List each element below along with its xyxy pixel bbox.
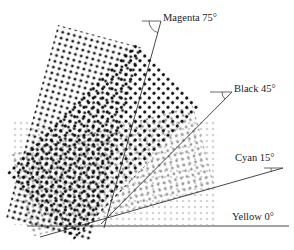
black-screen-label: Black 45° <box>234 83 276 94</box>
halftone-screen-angle-diagram: Magenta 75° Black 45° Cyan 15° Yellow 0° <box>0 0 294 250</box>
cyan-screen-label: Cyan 15° <box>235 152 275 163</box>
cyan-angle-arc-icon <box>271 168 272 171</box>
black-angle-arc-icon <box>222 92 225 99</box>
magenta-screen-label: Magenta 75° <box>163 12 217 23</box>
yellow-screen-label: Yellow 0° <box>232 211 274 222</box>
magenta-angle-arc-icon <box>149 21 158 33</box>
